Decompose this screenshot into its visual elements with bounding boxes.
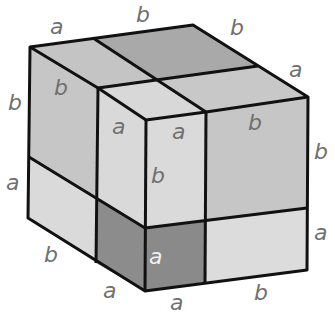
label-left-b-outer: b xyxy=(8,90,22,115)
label-bottom-a-left: a xyxy=(103,278,116,303)
label-front-a-top: a xyxy=(172,119,185,144)
label-front-a-inner: a xyxy=(112,114,125,139)
label-right-a-outer: a xyxy=(314,220,327,245)
label-small-cube-a: a xyxy=(149,244,162,269)
cube-diagram: a b b a b b a a a b b b a b a a a b xyxy=(0,0,335,314)
label-bottom-a-mid: a xyxy=(170,290,183,314)
cube-svg: a b b a b b a a a b b b a b a a a b xyxy=(0,0,335,314)
label-top-back-left-a: a xyxy=(50,14,63,39)
label-left-b-inner: b xyxy=(54,75,68,100)
label-top-right-a: a xyxy=(289,57,302,82)
label-left-a-outer: a xyxy=(6,170,19,195)
label-bottom-left-b: b xyxy=(44,242,58,267)
label-top-back-b: b xyxy=(136,2,150,27)
left-split-vertical xyxy=(96,88,98,263)
label-front-b-mid: b xyxy=(151,163,165,188)
label-bottom-b-right: b xyxy=(254,280,268,305)
label-right-b-outer: b xyxy=(314,139,328,164)
label-top-right-b: b xyxy=(230,15,244,40)
label-right-face-b: b xyxy=(248,110,262,135)
right-split-vertical xyxy=(205,112,206,282)
front-vertical-edge xyxy=(145,120,146,291)
